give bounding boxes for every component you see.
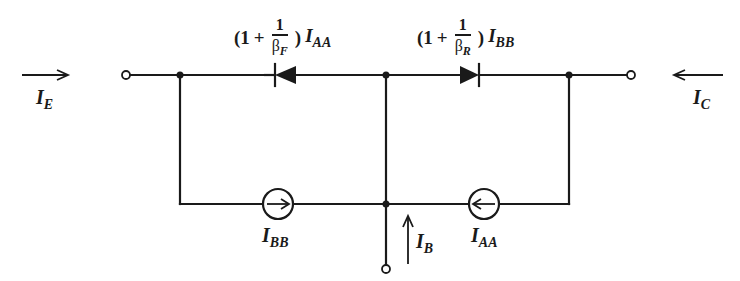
- junction-node-right: [566, 72, 573, 79]
- emitter-current-subscript: E: [44, 97, 53, 112]
- emitter-diode-label: (1 + 1 βF ) IAA: [234, 16, 331, 61]
- expr-close: ): [295, 27, 301, 49]
- collector-current-arrow-icon: [674, 70, 723, 80]
- emitter-current-label: IE: [36, 86, 53, 113]
- fraction-denominator: βR: [455, 36, 471, 61]
- base-current-subscript: B: [424, 241, 433, 256]
- expr-plus: +: [437, 27, 448, 49]
- source-bb-label: IBB: [262, 224, 288, 251]
- current-source-aa-icon: [469, 189, 499, 219]
- expr-current-symbol: I: [305, 25, 312, 46]
- expr-open: (1: [234, 27, 250, 49]
- expr-current-subscript: BB: [496, 35, 515, 50]
- source-aa-label: IAA: [471, 224, 497, 251]
- fraction-numerator: 1: [273, 16, 287, 34]
- collector-diode-icon: [460, 64, 479, 86]
- base-current-label: IB: [416, 230, 433, 257]
- expr-current-subscript: AA: [313, 35, 332, 50]
- source-bb-subscript: BB: [270, 235, 289, 250]
- source-bb-symbol: I: [262, 224, 270, 246]
- base-current-arrow-icon: [403, 216, 413, 264]
- junction-node-top-middle: [383, 72, 390, 79]
- expr-plus: +: [254, 27, 265, 49]
- emitter-current-symbol: I: [36, 86, 44, 108]
- junction-node-left: [177, 72, 184, 79]
- beta-fraction: 1 βF: [272, 16, 288, 61]
- base-terminal: [382, 265, 390, 273]
- beta-subscript: F: [280, 44, 288, 58]
- beta-subscript: R: [463, 44, 471, 58]
- expr-current: IBB: [488, 25, 514, 51]
- expr-current-symbol: I: [488, 25, 495, 46]
- collector-diode-label: (1 + 1 βR ) IBB: [417, 16, 514, 61]
- expr-open: (1: [417, 27, 433, 49]
- base-current-symbol: I: [416, 230, 424, 252]
- emitter-current-arrow-icon: [22, 70, 68, 80]
- emitter-diode-icon: [265, 64, 296, 86]
- beta-fraction: 1 βR: [455, 16, 471, 61]
- source-aa-symbol: I: [471, 224, 479, 246]
- fraction-denominator: βF: [272, 36, 288, 61]
- collector-current-symbol: I: [693, 86, 701, 108]
- collector-current-subscript: C: [701, 97, 710, 112]
- expr-current: IAA: [305, 25, 331, 51]
- source-aa-subscript: AA: [479, 235, 498, 250]
- junction-node-bottom-middle: [383, 201, 390, 208]
- beta-symbol: β: [455, 37, 463, 54]
- fraction-numerator: 1: [456, 16, 470, 34]
- expr-close: ): [478, 27, 484, 49]
- beta-symbol: β: [272, 37, 280, 54]
- current-source-bb-icon: [263, 189, 293, 219]
- collector-current-label: IC: [693, 86, 710, 113]
- emitter-terminal: [122, 71, 130, 79]
- collector-terminal: [627, 71, 635, 79]
- circuit-canvas: [0, 0, 740, 281]
